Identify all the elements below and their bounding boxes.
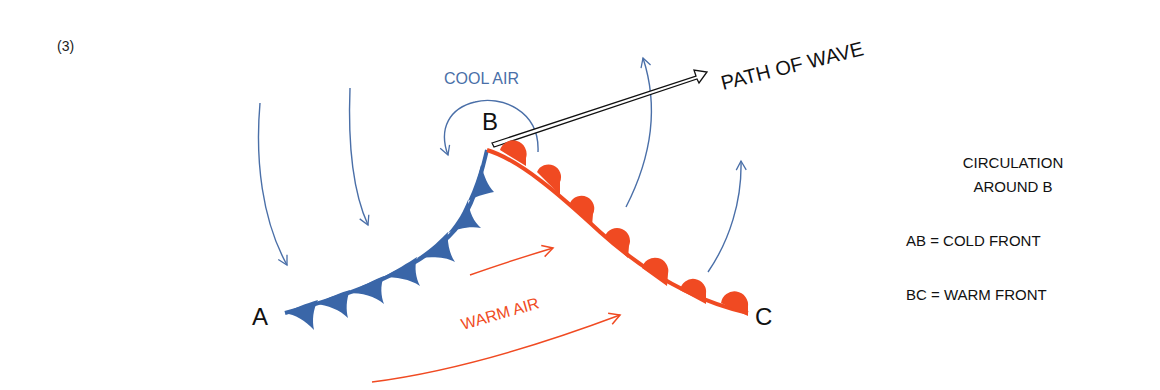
legend-warm-front: BC = WARM FRONT [906,286,1047,303]
path-of-wave-arrow [492,70,707,147]
rising-air-arrow-1 [626,58,651,207]
warm-front-bc [487,140,748,316]
warm-air-arrow-1 [470,248,553,275]
warm-air-arrow-2 [372,315,620,382]
cool-air-arrow-2 [350,88,368,225]
point-label-b: B [482,108,498,135]
path-of-wave-label: PATH OF WAVE [719,37,866,94]
warm-air-label: WARM AIR [459,294,541,332]
cool-air-arrow-1 [258,103,287,265]
point-label-a: A [252,303,268,330]
legend-cold-front: AB = COLD FRONT [906,232,1041,249]
point-label-c: C [755,303,772,330]
rising-air-arrow-2 [708,161,741,272]
cold-front-ab [285,150,494,330]
legend-circulation-line1: CIRCULATION [963,154,1064,171]
cool-air-label: COOL AIR [444,70,519,87]
legend-circulation-line2: AROUND B [973,178,1052,195]
frontal-wave-diagram: (3) A B C COOL AIR WARM A [0,0,1160,390]
panel-label: (3) [57,38,74,54]
